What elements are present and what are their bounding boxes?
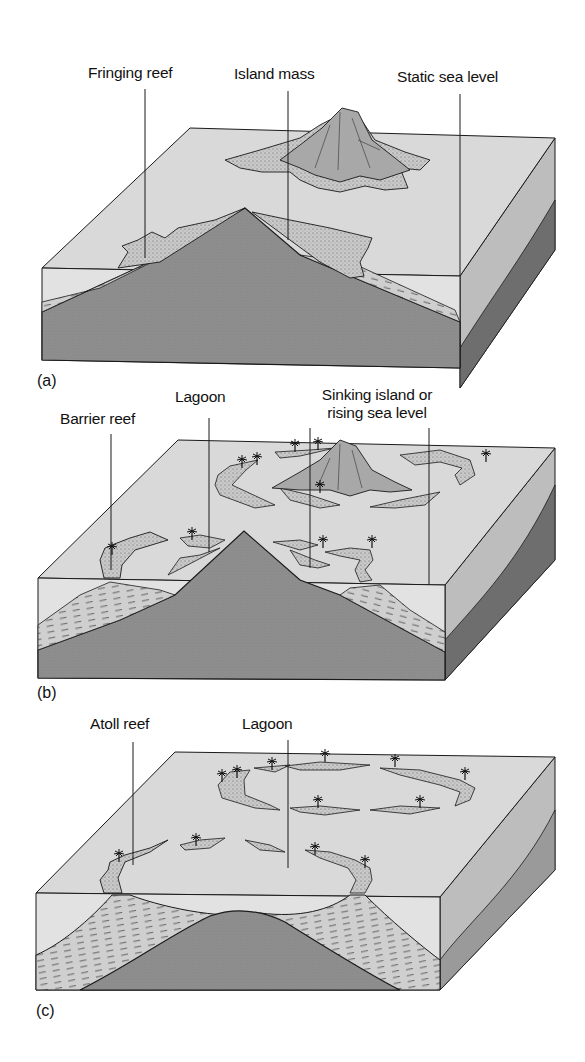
label-sinking-island: Sinking island or rising sea level (302, 386, 452, 422)
label-static-sea-level: Static sea level (397, 68, 498, 86)
panel-c-letter: (c) (36, 1002, 55, 1020)
label-sinking-island-line1: Sinking island or (302, 386, 452, 404)
label-barrier-reef: Barrier reef (60, 410, 135, 428)
label-atoll-reef: Atoll reef (90, 715, 149, 733)
atoll-formation-diagram (0, 0, 585, 1062)
panel-b-block (38, 437, 555, 680)
label-lagoon-c: Lagoon (242, 715, 293, 733)
label-sinking-island-line2: rising sea level (302, 404, 452, 422)
panel-a-block (42, 108, 555, 388)
label-lagoon-b: Lagoon (175, 388, 226, 406)
panel-b-letter: (b) (37, 684, 57, 702)
label-fringing-reef: Fringing reef (88, 64, 172, 82)
panel-a-letter: (a) (37, 372, 57, 390)
panel-c-block (36, 749, 555, 990)
label-island-mass: Island mass (234, 65, 315, 83)
